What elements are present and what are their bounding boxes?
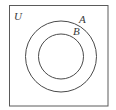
set-a-circle xyxy=(26,21,97,92)
set-b-circle xyxy=(39,34,84,79)
venn-diagram: U A B xyxy=(0,0,116,110)
set-b-label: B xyxy=(73,25,80,37)
set-a-label: A xyxy=(78,13,86,25)
universe-label: U xyxy=(14,10,23,22)
